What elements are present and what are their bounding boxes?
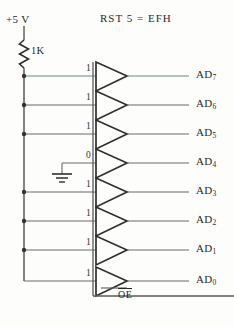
- circuit-diagram: +5 V 1K RST 5 = EFH 1 1 1 0 1 1 1 1 AD7 …: [0, 0, 234, 327]
- output-label-ad0-text: AD: [196, 273, 213, 285]
- buffer-ad3: [96, 178, 127, 207]
- buffer-ad1: [96, 236, 127, 265]
- diagram-title: RST 5 = EFH: [100, 13, 172, 24]
- junction-dot-ad7: [22, 74, 26, 78]
- bit-value-ad2: 1: [86, 209, 91, 219]
- buffer-ad2: [96, 207, 127, 236]
- output-enable-label-text: OE: [118, 288, 132, 301]
- output-wires-group: [127, 76, 189, 281]
- output-label-ad3-index: 3: [213, 189, 217, 198]
- output-label-ad5: AD5: [196, 127, 217, 138]
- output-label-ad2-text: AD: [196, 213, 213, 225]
- output-label-ad7-text: AD: [196, 68, 213, 80]
- power-supply-branch: [20, 26, 29, 76]
- output-label-ad4-text: AD: [196, 155, 213, 167]
- output-label-ad1-text: AD: [196, 242, 213, 254]
- junction-dot-ad1: [22, 248, 26, 252]
- resistor-zigzag: [20, 40, 29, 68]
- output-label-ad3: AD3: [196, 185, 217, 196]
- junction-dot-ad5: [22, 132, 26, 136]
- bit-value-ad6: 1: [86, 93, 91, 103]
- buffer-ad7: [96, 62, 127, 91]
- output-label-ad2-index: 2: [213, 218, 217, 227]
- output-label-ad6-text: AD: [196, 97, 213, 109]
- bit-value-ad0: 1: [86, 269, 91, 279]
- output-label-ad1-index: 1: [213, 247, 217, 256]
- buffer-ad4: [96, 149, 127, 178]
- output-label-ad6-index: 6: [213, 102, 217, 111]
- bit-value-ad1: 1: [86, 238, 91, 248]
- resistor-value-label: 1K: [31, 46, 44, 57]
- buffer-ad5: [96, 120, 127, 149]
- output-label-ad6: AD6: [196, 98, 217, 109]
- output-label-ad5-index: 5: [213, 131, 217, 140]
- bit-value-ad3: 1: [86, 180, 91, 190]
- output-label-ad7: AD7: [196, 69, 217, 80]
- output-label-ad1: AD1: [196, 243, 217, 254]
- supply-voltage-label: +5 V: [6, 14, 29, 25]
- output-label-ad4-index: 4: [213, 160, 217, 169]
- bit-value-ad7: 1: [86, 64, 91, 74]
- junction-dot-ad6: [22, 103, 26, 107]
- output-label-ad2: AD2: [196, 214, 217, 225]
- output-label-ad3-text: AD: [196, 184, 213, 196]
- junction-dot-ad2: [22, 219, 26, 223]
- output-label-ad5-text: AD: [196, 126, 213, 138]
- output-enable-label: OE: [118, 288, 132, 301]
- output-label-ad0: AD0: [196, 274, 217, 285]
- buffer-triangles-group: [96, 62, 127, 296]
- buffer-ad6: [96, 91, 127, 120]
- output-label-ad0-index: 0: [213, 278, 217, 287]
- junction-dot-ad3: [22, 190, 26, 194]
- output-label-ad4: AD4: [196, 156, 217, 167]
- bit-value-ad4: 0: [86, 151, 91, 161]
- bit-value-ad5: 1: [86, 122, 91, 132]
- output-label-ad7-index: 7: [213, 73, 217, 82]
